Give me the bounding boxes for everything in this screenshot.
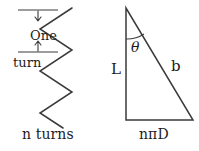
n-turns-caption: n turns — [22, 127, 74, 142]
right-triangle-outline — [126, 8, 193, 120]
right-diagram-group — [126, 8, 193, 120]
vertical-leg-label-L: L — [111, 62, 121, 78]
theta-angle-label: θ — [131, 40, 140, 55]
one-turn-label: One turn — [13, 15, 57, 96]
hypotenuse-label-b: b — [171, 59, 181, 75]
one-turn-label-line2: turn — [13, 56, 57, 70]
one-turn-label-line1: One — [30, 28, 57, 43]
base-label-npid: nπD — [139, 127, 169, 142]
figure-container: One turn n turns L b θ nπD — [0, 0, 199, 151]
